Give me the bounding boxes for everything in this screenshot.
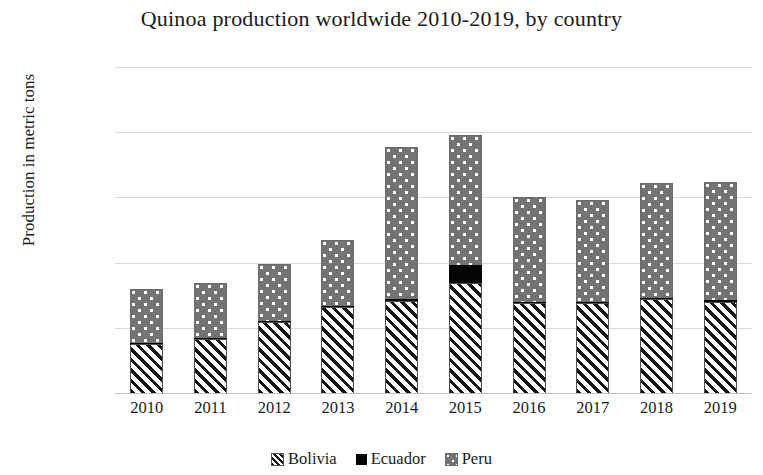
bar-group-2018[interactable] bbox=[640, 183, 673, 393]
bar-segment-bolivia-2013[interactable] bbox=[321, 307, 354, 393]
x-axis-tick-label-2018: 2018 bbox=[621, 398, 691, 418]
gridline bbox=[115, 393, 752, 394]
bar-segment-bolivia-2017[interactable] bbox=[576, 303, 609, 393]
bar-segment-peru-2015[interactable] bbox=[449, 135, 482, 265]
bar-group-2012[interactable] bbox=[258, 264, 291, 393]
bar-segment-peru-2014[interactable] bbox=[385, 147, 418, 300]
bar-segment-bolivia-2010[interactable] bbox=[130, 344, 163, 393]
legend-label-peru: Peru bbox=[462, 449, 492, 469]
bar-segment-peru-2018[interactable] bbox=[640, 183, 673, 298]
bar-group-2011[interactable] bbox=[194, 283, 227, 393]
bar-series-container bbox=[115, 67, 752, 393]
bar-segment-peru-2010[interactable] bbox=[130, 289, 163, 343]
dotted-swatch-icon bbox=[445, 453, 458, 466]
legend-item-bolivia[interactable]: Bolivia bbox=[271, 449, 337, 469]
bar-segment-peru-2012[interactable] bbox=[258, 264, 291, 321]
bar-group-2013[interactable] bbox=[321, 240, 354, 393]
chart-title: Quinoa production worldwide 2010-2019, b… bbox=[0, 6, 763, 32]
y-axis-title: Production in metric tons bbox=[19, 10, 39, 310]
bar-segment-bolivia-2014[interactable] bbox=[385, 301, 418, 393]
bar-segment-bolivia-2015[interactable] bbox=[449, 283, 482, 393]
bar-segment-bolivia-2012[interactable] bbox=[258, 322, 291, 393]
bar-segment-ecuador-2015[interactable] bbox=[449, 265, 482, 283]
bar-group-2017[interactable] bbox=[576, 200, 609, 393]
x-axis-tick-label-2012: 2012 bbox=[239, 398, 309, 418]
bar-segment-peru-2017[interactable] bbox=[576, 200, 609, 302]
bar-group-2016[interactable] bbox=[513, 197, 546, 393]
bar-segment-bolivia-2016[interactable] bbox=[513, 303, 546, 393]
hatch-swatch-icon bbox=[271, 453, 284, 466]
x-axis-tick-label-2014: 2014 bbox=[367, 398, 437, 418]
bar-group-2010[interactable] bbox=[130, 289, 163, 393]
x-axis-tick-labels: 2010201120122013201420152016201720182019 bbox=[115, 398, 752, 428]
bar-group-2014[interactable] bbox=[385, 147, 418, 393]
chart-legend: BoliviaEcuadorPeru bbox=[0, 449, 763, 469]
solid-swatch-icon bbox=[356, 454, 367, 465]
bar-group-2015[interactable] bbox=[449, 135, 482, 393]
x-axis-tick-label-2017: 2017 bbox=[558, 398, 628, 418]
x-axis-tick-label-2010: 2010 bbox=[112, 398, 182, 418]
x-axis-tick-label-2015: 2015 bbox=[430, 398, 500, 418]
x-axis-tick-label-2019: 2019 bbox=[685, 398, 755, 418]
bar-segment-bolivia-2011[interactable] bbox=[194, 339, 227, 393]
legend-item-peru[interactable]: Peru bbox=[445, 449, 492, 469]
bar-segment-peru-2011[interactable] bbox=[194, 283, 227, 338]
x-axis-tick-label-2013: 2013 bbox=[303, 398, 373, 418]
legend-label-bolivia: Bolivia bbox=[288, 449, 337, 469]
legend-label-ecuador: Ecuador bbox=[371, 449, 426, 469]
bar-segment-peru-2013[interactable] bbox=[321, 240, 354, 306]
legend-item-ecuador[interactable]: Ecuador bbox=[356, 449, 426, 469]
x-axis-tick-label-2016: 2016 bbox=[494, 398, 564, 418]
x-axis-tick-label-2011: 2011 bbox=[176, 398, 246, 418]
bar-segment-peru-2019[interactable] bbox=[704, 182, 737, 301]
bar-group-2019[interactable] bbox=[704, 182, 737, 393]
bar-segment-bolivia-2019[interactable] bbox=[704, 302, 737, 393]
bar-segment-bolivia-2018[interactable] bbox=[640, 299, 673, 393]
plot-area: 050000100000150000200000250000 bbox=[115, 67, 752, 393]
bar-segment-peru-2016[interactable] bbox=[513, 197, 546, 301]
